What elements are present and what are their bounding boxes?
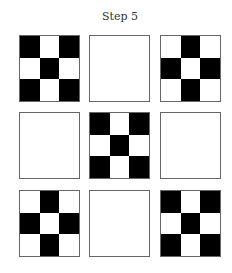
panel-empty [19,112,80,179]
empty-cell [20,58,40,80]
empty-cell [129,234,149,256]
empty-cell [20,191,40,213]
empty-cell [20,135,40,157]
empty-cell [161,156,181,178]
filled-cell [20,36,40,58]
empty-cell [59,234,79,256]
empty-cell [40,135,60,157]
empty-cell [129,213,149,235]
empty-cell [40,79,60,101]
empty-cell [161,213,181,235]
empty-cell [90,58,110,80]
filled-cell [20,79,40,101]
empty-cell [40,156,60,178]
empty-cell [110,213,130,235]
empty-cell [90,135,110,157]
filled-cell [161,58,181,80]
empty-cell [181,191,201,213]
filled-cell [40,234,60,256]
empty-cell [200,36,220,58]
empty-cell [161,135,181,157]
empty-cell [181,135,201,157]
empty-cell [129,58,149,80]
empty-cell [129,79,149,101]
filled-cell [90,113,110,135]
filled-cell [181,213,201,235]
empty-cell [110,156,130,178]
empty-cell [59,113,79,135]
empty-cell [129,135,149,157]
empty-cell [129,36,149,58]
filled-cell [161,234,181,256]
empty-cell [181,156,201,178]
empty-cell [90,79,110,101]
panel-empty [89,190,150,257]
empty-cell [181,58,201,80]
empty-cell [59,58,79,80]
empty-cell [20,234,40,256]
empty-cell [200,156,220,178]
empty-cell [59,156,79,178]
empty-cell [90,234,110,256]
filled-cell [110,135,130,157]
filled-cell [200,191,220,213]
panel-x [160,190,221,257]
filled-cell [161,191,181,213]
filled-cell [59,36,79,58]
empty-cell [110,36,130,58]
empty-cell [181,113,201,135]
filled-cell [20,213,40,235]
panel-empty [89,35,150,102]
filled-cell [40,58,60,80]
empty-cell [59,191,79,213]
empty-cell [110,58,130,80]
filled-cell [200,234,220,256]
empty-cell [200,213,220,235]
empty-cell [200,135,220,157]
panel-empty [160,112,221,179]
empty-cell [129,191,149,213]
empty-cell [161,36,181,58]
empty-cell [40,113,60,135]
empty-cell [20,156,40,178]
empty-cell [110,113,130,135]
empty-cell [161,113,181,135]
filled-cell [181,36,201,58]
empty-cell [20,113,40,135]
filled-cell [59,79,79,101]
empty-cell [59,135,79,157]
empty-cell [90,36,110,58]
empty-cell [40,36,60,58]
filled-cell [129,156,149,178]
filled-cell [181,79,201,101]
filled-cell [90,156,110,178]
filled-cell [129,113,149,135]
panel-plus [19,190,80,257]
panel-plus [160,35,221,102]
empty-cell [40,213,60,235]
panel-x [89,112,150,179]
panel-x [19,35,80,102]
empty-cell [200,113,220,135]
filled-cell [200,58,220,80]
empty-cell [90,213,110,235]
empty-cell [181,234,201,256]
empty-cell [110,234,130,256]
empty-cell [90,191,110,213]
empty-cell [161,79,181,101]
filled-cell [59,213,79,235]
empty-cell [110,79,130,101]
empty-cell [200,79,220,101]
filled-cell [40,191,60,213]
empty-cell [110,191,130,213]
step-title: Step 5 [0,10,232,23]
